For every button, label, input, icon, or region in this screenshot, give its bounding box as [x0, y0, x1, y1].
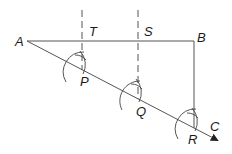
label-r: R: [188, 132, 197, 147]
label-a: A: [14, 34, 24, 49]
line-ac: [27, 41, 217, 140]
construction-diagram: A T S B P Q R C: [0, 0, 232, 154]
label-p: P: [80, 74, 89, 89]
label-q: Q: [136, 104, 146, 119]
label-t: T: [89, 24, 98, 39]
label-c: C: [210, 119, 220, 134]
label-b: B: [197, 30, 206, 45]
label-s: S: [144, 24, 153, 39]
